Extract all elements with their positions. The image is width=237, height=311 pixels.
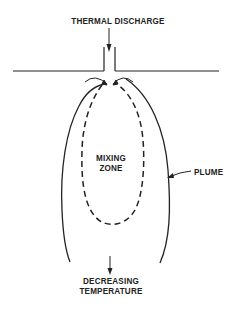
thermal-discharge-label: THERMAL DISCHARGE <box>64 16 172 26</box>
flow-arrows-icon <box>85 78 133 85</box>
diagram-canvas: THERMAL DISCHARGE MIXING ZONE PLUME DECR… <box>0 0 237 311</box>
plume-label: PLUME <box>194 167 230 177</box>
plume-boundary <box>62 106 79 262</box>
mixing-zone-label-line1: MIXING <box>89 153 134 163</box>
temperature-arrow-icon <box>108 256 113 275</box>
decreasing-temperature-label-line1: DECREASING <box>62 276 161 286</box>
plume-pointer-arrow-icon <box>167 171 191 178</box>
mixing-zone-label-line2: ZONE <box>89 163 134 173</box>
decreasing-temperature-label-line2: TEMPERATURE <box>62 286 161 296</box>
decreasing-temperature-label: DECREASING TEMPERATURE <box>62 276 161 296</box>
discharge-channel <box>104 47 115 71</box>
discharge-arrow-icon <box>107 28 112 52</box>
mixing-zone-label: MIXING ZONE <box>89 153 134 173</box>
